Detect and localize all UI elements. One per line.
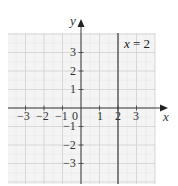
x-tick-label: 3 xyxy=(133,109,139,123)
x-tick-label: 1 xyxy=(97,109,103,123)
line-label: x = 2 xyxy=(123,36,150,51)
y-tick-label: −2 xyxy=(63,138,76,152)
y-axis-label: y xyxy=(68,13,76,28)
y-tick-label: −1 xyxy=(63,119,76,133)
y-axis-arrow-icon xyxy=(78,19,85,27)
y-tick-label: −3 xyxy=(63,156,76,170)
x-tick-label: 2 xyxy=(115,109,121,123)
coordinate-plane: x y x = 2 0 −3 −2 −1 1 2 3 3 2 1 −1 −2 −… xyxy=(0,0,178,186)
y-tick-label: 3 xyxy=(70,45,76,59)
y-tick-label: 1 xyxy=(70,82,76,96)
y-tick-label: 2 xyxy=(70,64,76,78)
x-tick-label: −2 xyxy=(36,109,49,123)
x-tick-label: −3 xyxy=(17,109,30,123)
x-axis-label: x xyxy=(162,109,169,124)
